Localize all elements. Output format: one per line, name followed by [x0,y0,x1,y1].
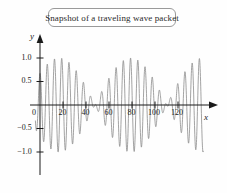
x-axis-label: x [204,112,208,122]
x-tick-label-80: 80 [127,108,135,117]
wave-packet-plot [0,0,227,193]
x-tick-label-60: 60 [104,108,112,117]
x-axis-arrow [209,102,218,109]
origin-label: 0 [32,108,36,117]
y-axis-arrow [37,34,44,43]
figure-container: Snapshot of a traveling wave packet y x … [0,0,227,193]
x-tick-label-40: 40 [81,108,89,117]
x-tick-label-120: 120 [171,108,183,117]
x-tick-label-20: 20 [58,108,66,117]
y-tick-label-0.5: 0.5 [21,76,31,85]
y-tick-label--0.5: −0.5 [17,123,32,132]
y-axis-label: y [30,31,34,41]
y-tick-label--1.0: −1.0 [17,147,32,156]
y-tick-label-1.0: 1.0 [21,53,31,62]
x-tick-label-100: 100 [148,108,160,117]
